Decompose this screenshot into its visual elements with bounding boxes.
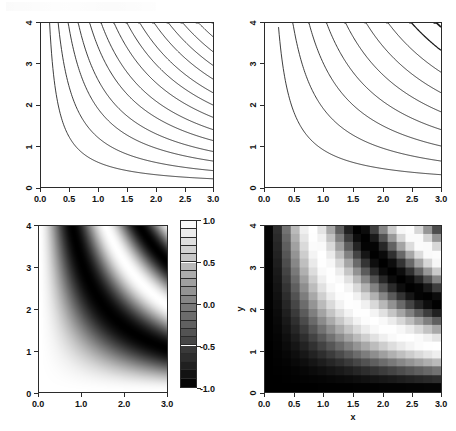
xtick — [264, 188, 265, 192]
xtick — [69, 188, 70, 192]
colorbar-tick — [197, 220, 201, 221]
ytick-label: 2 — [24, 103, 34, 108]
ytick-label: 0 — [26, 389, 31, 399]
contour-line — [58, 23, 213, 171]
xtick — [81, 393, 82, 397]
ytick — [260, 393, 264, 394]
ytick-label: 4 — [248, 224, 258, 229]
heatmap-image-coarse — [265, 226, 441, 392]
colorbar-band — [181, 221, 196, 229]
ytick-label: 3 — [26, 263, 31, 273]
ytick — [260, 22, 264, 23]
xtick-label: 0.5 — [288, 194, 300, 204]
contour-line — [113, 23, 213, 117]
xtick-label: 1.0 — [75, 399, 87, 409]
colorbar-label: 1.0 — [203, 216, 215, 226]
xtick — [185, 188, 186, 192]
xtick — [156, 188, 157, 192]
xtick-label: 3.0 — [435, 399, 447, 409]
ytick-label: 0 — [24, 186, 34, 191]
colorbar-band — [181, 229, 196, 237]
xtick — [383, 393, 384, 397]
contour-line — [101, 23, 213, 130]
ytick — [260, 309, 264, 310]
contour-line — [181, 23, 213, 52]
xtick — [353, 393, 354, 397]
colorbar-band — [181, 304, 196, 312]
ytick — [34, 225, 38, 226]
colorbar-band — [181, 362, 196, 370]
colorbar-band — [181, 279, 196, 287]
xtick — [264, 393, 265, 397]
xtick — [40, 188, 41, 192]
ytick-label: 3 — [24, 62, 34, 67]
xtick-label: 1.0 — [92, 194, 104, 204]
xtick — [441, 188, 442, 192]
ytick-label: 0 — [248, 391, 258, 396]
ytick — [260, 225, 264, 226]
ytick-label: 1 — [26, 347, 31, 357]
ytick — [260, 63, 264, 64]
colorbar-band — [181, 287, 196, 295]
figure-canvas: 0.0 0.5 1.0 1.5 2.0 2.5 3.0 0 1 2 3 4 0. — [0, 0, 456, 431]
ytick — [34, 393, 38, 394]
xtick-label: 2.0 — [118, 399, 130, 409]
panel-bottom-left: 0.0 1.0 2.0 3.0 0 1 2 3 4 1.0 0.5 0.0 -0… — [0, 215, 228, 431]
contour-line — [152, 23, 213, 79]
ytick-label: 4 — [24, 21, 34, 26]
xtick — [441, 393, 442, 397]
xtick-label: 0.0 — [32, 399, 44, 409]
xtick-label: 1.0 — [317, 194, 329, 204]
colorbar-band — [181, 296, 196, 304]
colorbar-tick — [197, 262, 201, 263]
xtick — [294, 188, 295, 192]
ytick-label: 2 — [26, 305, 31, 315]
plot-area-top-left — [40, 22, 214, 188]
ytick-label: 3 — [248, 266, 258, 271]
panel-top-left: 0.0 0.5 1.0 1.5 2.0 2.5 3.0 0 1 2 3 4 — [0, 0, 228, 215]
ytick-label: 2 — [248, 103, 258, 108]
ytick — [34, 351, 38, 352]
xtick-label: 1.5 — [347, 399, 359, 409]
colorbar-band — [181, 246, 196, 254]
plot-area-bottom-right — [264, 225, 442, 393]
xtick-label: 1.5 — [121, 194, 133, 204]
contour-line — [409, 23, 441, 50]
xtick — [323, 188, 324, 192]
xtick-label: 1.5 — [347, 194, 359, 204]
colorbar-band — [181, 321, 196, 329]
heatmap-image-smooth — [39, 226, 167, 392]
ytick — [36, 22, 40, 23]
contour-line — [78, 23, 213, 151]
colorbar-band — [181, 329, 196, 337]
ytick-label: 3 — [248, 62, 258, 67]
contour-line — [167, 23, 213, 65]
xtick-label: 0.0 — [258, 194, 270, 204]
colorbar-band — [181, 346, 196, 354]
xtick — [323, 393, 324, 397]
xtick-label: 2.0 — [150, 194, 162, 204]
ytick — [34, 267, 38, 268]
xtick — [124, 393, 125, 397]
ytick — [36, 188, 40, 189]
xtick — [167, 393, 168, 397]
ytick — [36, 105, 40, 106]
ytick-label: 0 — [248, 186, 258, 191]
ytick-label: 4 — [26, 221, 31, 231]
ytick — [34, 309, 38, 310]
colorbar-label: 0.0 — [203, 300, 215, 310]
xtick-label: 2.0 — [377, 399, 389, 409]
xtick-label: 1.0 — [317, 399, 329, 409]
contour-line — [68, 23, 213, 161]
ytick-label: 1 — [248, 350, 258, 355]
contour-lines-top-right — [265, 23, 441, 187]
ytick — [260, 188, 264, 189]
xtick-label: 3.0 — [435, 194, 447, 204]
ytick-label: 2 — [248, 308, 258, 313]
ytick-label: 4 — [248, 21, 258, 26]
colorbar-band — [181, 254, 196, 262]
panel-top-right: 0.0 0.5 1.0 1.5 2.0 2.5 3.0 0 1 2 3 4 — [228, 0, 456, 215]
xtick — [38, 393, 39, 397]
xtick-label: 0.0 — [34, 194, 46, 204]
xtick-label: 2.5 — [406, 194, 418, 204]
